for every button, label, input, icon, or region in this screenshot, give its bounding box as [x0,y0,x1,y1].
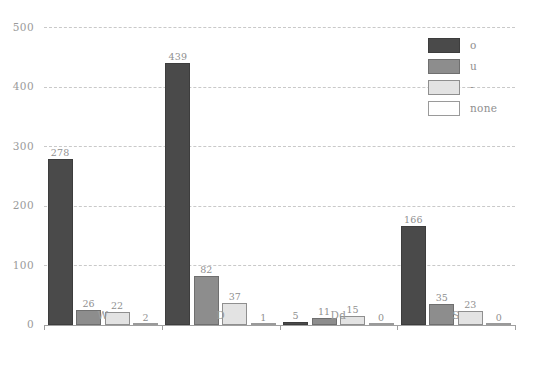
legend-label: o [470,39,477,51]
bar-value-label: 166 [395,214,432,225]
y-tick-label: 100 [0,259,34,271]
bar-chart: 500 400 300 200 100 0 278262224398237151… [0,0,534,368]
x-tick [397,325,398,330]
x-tick [515,325,516,330]
x-group-label-Dd: Dd [280,309,398,321]
bar-value-label: 82 [188,264,225,275]
legend-swatch-icon [428,59,460,74]
legend-swatch-icon [428,80,460,95]
x-group-label-D: D [162,309,280,321]
x-tick [44,325,45,330]
bar-S-none [486,323,511,325]
bar-Dd-o [283,322,308,325]
y-axis: 500 400 300 200 100 0 [0,0,44,368]
caption [0,356,534,368]
x-tick [162,325,163,330]
y-tick-label: 300 [0,140,34,152]
y-tick-label: 200 [0,199,34,211]
y-tick-label: 0 [0,318,34,330]
bar-W-none [133,323,158,325]
y-tick-label: 400 [0,80,34,92]
x-group-label-W: W [44,309,162,321]
bar-D-o [165,63,190,325]
x-group-label-S: S [397,309,515,321]
bar-value-label: 439 [159,51,196,62]
legend-label: u [470,60,477,72]
bar-D-none [251,323,276,325]
legend-swatch-icon [428,38,460,53]
legend-label: - [470,81,474,93]
legend-label: none [470,102,497,114]
x-tick [280,325,281,330]
bar-value-label: 278 [42,147,79,158]
bar-W-o [48,159,73,325]
bar-value-label: 37 [216,291,253,302]
legend-swatch-icon [428,101,460,116]
bar-Dd-none [369,323,394,325]
y-tick-label: 500 [0,21,34,33]
